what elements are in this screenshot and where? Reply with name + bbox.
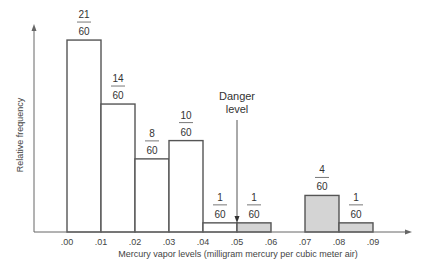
histogram-bar [169,141,203,232]
x-tick-label: .01 [95,237,108,247]
x-tick-label: .05 [231,237,244,247]
bar-label-denominator: 60 [248,209,260,220]
bar-label-numerator: 10 [180,110,192,121]
bar-label-denominator: 60 [316,181,328,192]
x-tick-label: .00 [61,237,74,247]
histogram-bar [305,195,339,232]
x-axis-arrow-icon [405,230,412,235]
histogram-bar [203,223,237,232]
bar-label-numerator: 21 [78,9,90,20]
x-tick-label: .07 [299,237,312,247]
bar-label-numerator: 1 [251,192,257,203]
bar-label-numerator: 8 [149,128,155,139]
y-axis-title: Relative frequency [15,97,25,172]
x-tick-label: .09 [367,237,380,247]
histogram-chart: 216014608601060160160460160.00.01.02.03.… [0,0,427,268]
histogram-bar [67,40,101,232]
x-tick-label: .08 [333,237,346,247]
bar-label-numerator: 1 [353,192,359,203]
bar-label-denominator: 60 [350,209,362,220]
danger-label-line2: level [226,103,249,115]
histogram-bar [339,223,373,232]
bar-label-denominator: 60 [112,90,124,101]
bar-label-numerator: 4 [319,164,325,175]
bar-label-denominator: 60 [180,127,192,138]
x-tick-label: .02 [129,237,142,247]
bar-label-denominator: 60 [146,145,158,156]
bar-label-numerator: 1 [217,192,223,203]
histogram-bar [135,159,169,232]
x-tick-label: .06 [265,237,278,247]
bar-label-denominator: 60 [78,26,90,37]
histogram-bar [101,104,135,232]
danger-arrow-icon [235,216,240,223]
bar-label-denominator: 60 [214,209,226,220]
x-axis-title: Mercury vapor levels (milligram mercury … [118,249,358,259]
bar-label-numerator: 14 [112,73,124,84]
x-tick-label: .03 [163,237,176,247]
danger-label-line1: Danger [219,90,255,102]
histogram-bar [237,223,271,232]
y-axis-arrow-icon [32,24,37,31]
x-tick-label: .04 [197,237,210,247]
